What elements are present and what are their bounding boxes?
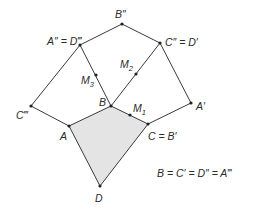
diagram-canvas: B″ A″ = D‴ C″ = D′ M3 M2 B M1 C‴ A C = B… — [0, 0, 253, 211]
label-m3: M3 — [81, 74, 95, 89]
point-c2 — [158, 41, 161, 44]
label-m1: M1 — [133, 102, 146, 117]
label-a2: A″ = D‴ — [46, 35, 82, 47]
edge-c2-b2 — [122, 24, 160, 43]
point-a1 — [189, 101, 192, 104]
point-d — [98, 184, 101, 187]
label-c2: C″ = D′ — [165, 36, 199, 48]
point-m1 — [128, 113, 131, 116]
label-d: D — [95, 192, 103, 204]
point-a — [67, 124, 70, 127]
point-c — [146, 122, 149, 125]
point-c3 — [29, 104, 32, 107]
point-m2 — [134, 72, 137, 75]
point-b2 — [120, 22, 123, 25]
label-m2: M2 — [120, 58, 134, 73]
label-b2: B″ — [115, 8, 127, 20]
quadrilateral-abcd — [69, 106, 148, 186]
edge-c-a1 — [148, 103, 191, 124]
label-a1: A′ — [195, 100, 206, 112]
label-b: B — [99, 96, 106, 108]
label-a: A — [59, 130, 67, 142]
point-b — [109, 104, 112, 107]
edge-c3-a — [31, 106, 69, 126]
edge-a1-c2 — [160, 43, 191, 103]
label-c3: C‴ — [16, 109, 29, 121]
point-m3 — [94, 73, 97, 76]
label-c: C = B′ — [148, 130, 178, 142]
equality-note: B = C′ = D″ = A‴ — [157, 167, 232, 179]
edge-b2-a2 — [80, 24, 122, 45]
edge-a2-c3 — [31, 45, 80, 106]
